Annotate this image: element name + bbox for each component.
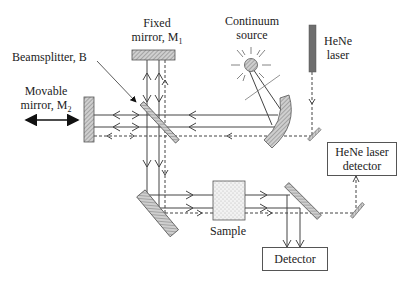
beamsplitter-pointer bbox=[97, 61, 136, 102]
hene-mirror-2 bbox=[350, 202, 364, 218]
detector-box: Detector bbox=[262, 247, 328, 271]
hene-laser-label: HeNe laser bbox=[322, 34, 354, 62]
hene-laser bbox=[309, 25, 316, 72]
hene-laser-detector-box: HeNe laser detector bbox=[327, 142, 397, 176]
beamsplitter-label: Beamsplitter, B bbox=[12, 50, 87, 64]
hene-mirror-1 bbox=[308, 128, 321, 141]
continuum-source-label: Continuum source bbox=[222, 14, 282, 42]
movable-mirror bbox=[84, 97, 94, 142]
baffle-line bbox=[245, 75, 280, 100]
movable-mirror-label: Movable mirror, M2 bbox=[16, 84, 76, 117]
focusing-mirror bbox=[285, 183, 322, 220]
sample-label: Sample bbox=[210, 224, 246, 238]
sample-cell bbox=[213, 181, 245, 220]
fixed-mirror-label: Fixed mirror, M1 bbox=[127, 16, 187, 49]
source-ray-1 bbox=[249, 70, 272, 125]
fixed-mirror bbox=[132, 50, 175, 60]
beamsplitter bbox=[140, 102, 179, 143]
curved-mirror bbox=[264, 95, 291, 148]
